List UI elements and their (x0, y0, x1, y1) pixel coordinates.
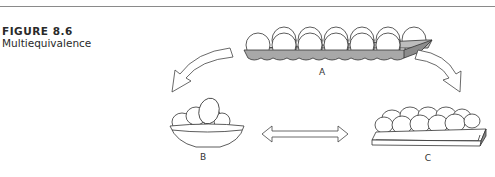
egg-carton-a (244, 27, 432, 60)
label-c: C (425, 153, 431, 163)
multiequivalence-diagram: A B C (0, 0, 495, 177)
arrow-a-to-b (172, 48, 233, 92)
arrow-a-to-c (415, 50, 461, 92)
label-b: B (200, 152, 206, 162)
arrow-b-c-bidirectional (262, 126, 348, 142)
label-a: A (319, 67, 326, 77)
egg-bowl-b (170, 96, 244, 147)
egg-tray-c (372, 107, 486, 146)
